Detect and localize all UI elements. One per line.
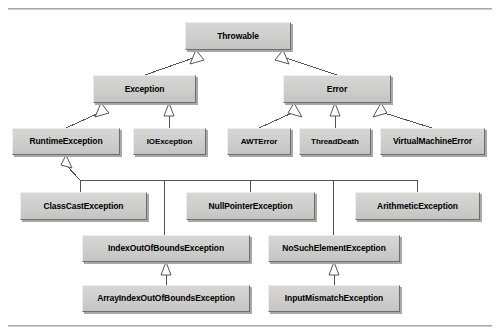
edge-exception-throwable	[145, 57, 196, 75]
arrowhead-virtualmachineerror-error	[373, 103, 387, 117]
class-box-null-pointer-exception[interactable]: NullPointerException	[186, 192, 315, 220]
class-box-thread-death[interactable]: ThreadDeath	[299, 128, 371, 155]
arrowhead-arrayindexoob-indexoob	[161, 262, 171, 275]
class-box-no-such-element-exception[interactable]: NoSuchElementException	[268, 235, 400, 262]
class-box-label: RuntimeException	[29, 137, 102, 146]
arrowhead-threaddeath-error	[330, 103, 340, 116]
class-box-array-index-oob-exception[interactable]: ArrayIndexOutOfBoundsException	[82, 285, 250, 312]
class-box-label: Throwable	[217, 32, 259, 41]
class-box-label: IndexOutOfBoundsException	[108, 244, 224, 253]
class-box-awt-error[interactable]: AWTError	[227, 128, 291, 155]
arrowhead-awterror-error	[288, 103, 302, 117]
class-box-label: ArithmeticException	[377, 202, 458, 211]
class-box-label: ArrayIndexOutOfBoundsException	[97, 294, 235, 303]
class-box-label: ThreadDeath	[311, 138, 359, 146]
class-box-runtime-exception[interactable]: RuntimeException	[12, 128, 120, 155]
edge-error-throwable	[283, 57, 337, 75]
class-box-throwable[interactable]: Throwable	[185, 22, 291, 50]
edge-awterror-error	[259, 112, 294, 128]
class-box-label: NullPointerException	[209, 202, 293, 211]
class-box-input-mismatch-exception[interactable]: InputMismatchException	[268, 285, 400, 312]
arrowhead-ioexception-exception	[164, 103, 174, 116]
arrowhead-inputmismatch-nosuchelement	[329, 262, 339, 275]
class-box-label: Exception	[125, 85, 165, 94]
class-box-io-exception[interactable]: IOException	[133, 128, 206, 155]
class-hierarchy-diagram: ThrowableExceptionErrorRuntimeExceptionI…	[0, 0, 500, 335]
class-box-label: IOException	[147, 138, 193, 146]
arrowhead-exception-throwable	[190, 50, 204, 64]
class-box-label: Error	[327, 85, 347, 94]
arrowhead-runtimesubtree-runtimeexception	[61, 155, 72, 168]
class-box-label: NoSuchElementException	[282, 244, 386, 253]
class-box-exception[interactable]: Exception	[93, 75, 196, 103]
class-box-class-cast-exception[interactable]: ClassCastException	[20, 192, 147, 220]
edge-virtualmachineerror-error	[381, 112, 432, 128]
class-box-arithmetic-exception[interactable]: ArithmeticException	[355, 192, 480, 220]
class-box-error[interactable]: Error	[283, 75, 391, 103]
class-box-label: VirtualMachineError	[393, 137, 472, 146]
arrowhead-runtimeexception-exception	[95, 103, 109, 117]
class-box-label: ClassCastException	[44, 202, 124, 211]
class-box-virtual-machine-error[interactable]: VirtualMachineError	[380, 128, 485, 155]
inheritance-connectors	[0, 0, 500, 335]
class-box-label: InputMismatchException	[285, 294, 383, 303]
class-box-label: AWTError	[241, 138, 278, 146]
arrowhead-error-throwable	[275, 50, 289, 64]
class-box-index-out-of-bounds-exception[interactable]: IndexOutOfBoundsException	[82, 235, 250, 262]
